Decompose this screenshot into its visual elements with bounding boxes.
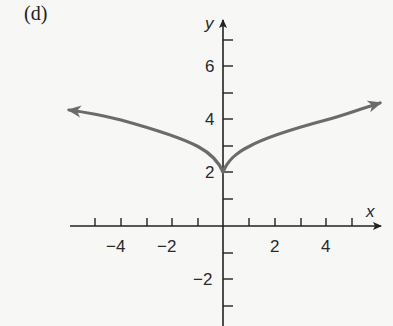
x-axis-label: x (365, 202, 375, 221)
y-tick-label-6: 6 (205, 57, 214, 76)
x-tick-label-4: 4 (321, 237, 330, 256)
x-tick-label-neg4: −4 (106, 237, 125, 256)
y-tick-label-neg2: −2 (193, 270, 212, 289)
y-tick-label-4: 4 (205, 110, 214, 129)
x-tick-label-2: 2 (270, 237, 279, 256)
y-tick-label-2: 2 (205, 163, 214, 182)
x-tick-label-neg2: −2 (157, 237, 176, 256)
curve-right (223, 103, 380, 172)
curve-left (69, 110, 223, 172)
y-axis-label: y (204, 14, 215, 33)
y-ticks (223, 40, 233, 306)
graph: −4 −2 2 4 6 4 2 −2 x y (0, 0, 393, 326)
